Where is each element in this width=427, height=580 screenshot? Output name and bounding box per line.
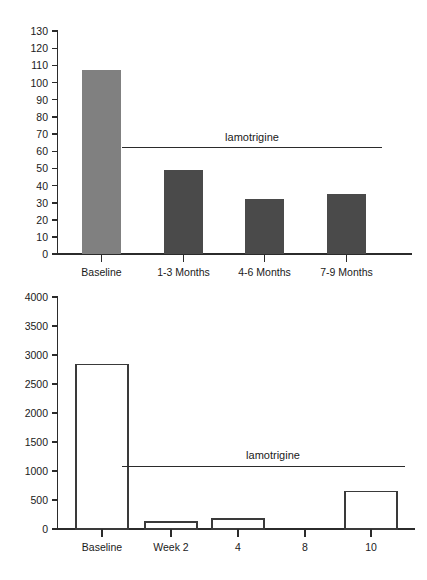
chart-bottom-canvas: 4000 3500 3000 2500 2000 1500 1000 500 0 bbox=[0, 285, 427, 580]
x-ticks-top bbox=[102, 254, 347, 262]
x-ticks-bottom bbox=[102, 529, 371, 537]
y-tick-label: 10 bbox=[36, 231, 48, 243]
y-tick-label: 90 bbox=[36, 94, 48, 106]
x-tick-label-baseline: Baseline bbox=[81, 266, 121, 278]
bars-bottom bbox=[76, 364, 397, 529]
annotation-lamotrigine-top: lamotrigine bbox=[122, 131, 382, 148]
bars-top bbox=[82, 70, 366, 254]
y-tick-label: 110 bbox=[31, 59, 48, 71]
y-tick-label: 1000 bbox=[25, 465, 49, 477]
x-tick-label-week-8: 8 bbox=[302, 541, 308, 553]
treatment-rule-label: lamotrigine bbox=[225, 131, 279, 143]
y-tick-label: 100 bbox=[30, 77, 48, 89]
annotation-lamotrigine-bottom: lamotrigine bbox=[122, 449, 405, 466]
y-tick-label: 70 bbox=[36, 128, 48, 140]
y-tick-label: 500 bbox=[30, 494, 48, 506]
chart-seizure-frequency-months: 130 120 110 100 90 80 70 60 50 40 30 20 … bbox=[0, 0, 427, 290]
x-tick-label-7-9-months: 7-9 Months bbox=[320, 266, 373, 278]
y-tick-label: 3000 bbox=[25, 349, 49, 361]
bar-1-3-months[interactable] bbox=[164, 170, 203, 254]
y-tick-label: 1500 bbox=[25, 436, 49, 448]
y-tick-label: 50 bbox=[36, 162, 48, 174]
y-tick-labels-top: 130 120 110 100 90 80 70 60 50 40 30 20 … bbox=[30, 25, 48, 260]
x-tick-labels-bottom: Baseline Week 2 4 8 10 bbox=[82, 541, 377, 553]
y-tick-label: 2000 bbox=[25, 407, 49, 419]
y-tick-label: 120 bbox=[30, 42, 48, 54]
y-tick-label: 2500 bbox=[25, 378, 49, 390]
y-tick-label: 4000 bbox=[25, 291, 49, 303]
x-tick-label-week-4: 4 bbox=[235, 541, 241, 553]
x-tick-label-baseline: Baseline bbox=[82, 541, 122, 553]
y-ticks-bottom bbox=[52, 297, 58, 529]
y-tick-label: 0 bbox=[42, 523, 48, 535]
bar-week-2[interactable] bbox=[145, 522, 197, 529]
y-tick-label: 3500 bbox=[25, 320, 49, 332]
bar-week-10[interactable] bbox=[345, 491, 397, 529]
y-tick-label: 30 bbox=[36, 197, 48, 209]
bar-baseline[interactable] bbox=[76, 364, 128, 529]
bar-baseline[interactable] bbox=[82, 70, 121, 254]
y-tick-label: 130 bbox=[30, 25, 48, 37]
y-ticks-top bbox=[52, 31, 58, 254]
x-tick-label-4-6-months: 4-6 Months bbox=[238, 266, 291, 278]
chart-seizure-frequency-weeks: 4000 3500 3000 2500 2000 1500 1000 500 0 bbox=[0, 285, 427, 580]
x-tick-labels-top: Baseline 1-3 Months 4-6 Months 7-9 Month… bbox=[81, 266, 372, 278]
figure-two-bar-charts: 130 120 110 100 90 80 70 60 50 40 30 20 … bbox=[0, 0, 427, 580]
bar-week-4[interactable] bbox=[212, 519, 264, 529]
bar-7-9-months[interactable] bbox=[327, 194, 366, 254]
y-tick-labels-bottom: 4000 3500 3000 2500 2000 1500 1000 500 0 bbox=[25, 291, 49, 535]
x-tick-label-week-2: Week 2 bbox=[153, 541, 189, 553]
y-tick-label: 80 bbox=[36, 111, 48, 123]
x-tick-label-1-3-months: 1-3 Months bbox=[157, 266, 210, 278]
treatment-rule-label: lamotrigine bbox=[246, 449, 300, 461]
y-tick-label: 0 bbox=[42, 248, 48, 260]
x-tick-label-week-10: 10 bbox=[365, 541, 377, 553]
y-tick-label: 20 bbox=[36, 214, 48, 226]
bar-4-6-months[interactable] bbox=[245, 199, 284, 254]
y-tick-label: 60 bbox=[36, 145, 48, 157]
y-tick-label: 40 bbox=[36, 180, 48, 192]
chart-top-canvas: 130 120 110 100 90 80 70 60 50 40 30 20 … bbox=[0, 0, 427, 290]
